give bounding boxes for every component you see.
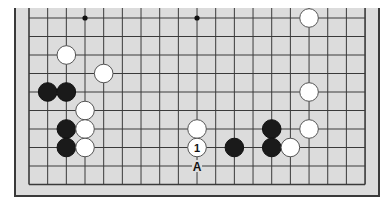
point-label-a: A <box>193 160 202 174</box>
white-stone <box>300 120 319 139</box>
black-stone <box>57 138 76 157</box>
white-stone <box>300 9 319 28</box>
black-stone <box>57 120 76 139</box>
star-point <box>194 15 199 20</box>
white-stone <box>300 83 319 102</box>
black-stone <box>38 83 57 102</box>
move-number-label: 1 <box>194 142 200 154</box>
star-point <box>82 15 87 20</box>
white-stone <box>188 120 207 139</box>
black-stone <box>225 138 244 157</box>
white-stone <box>57 46 76 65</box>
white-stone <box>76 120 95 139</box>
black-stone <box>262 120 281 139</box>
black-stone <box>57 83 76 102</box>
white-stone <box>76 138 95 157</box>
black-stone <box>262 138 281 157</box>
go-board: 1A <box>0 0 391 210</box>
white-stone <box>76 101 95 120</box>
white-stone <box>94 64 113 83</box>
white-stone <box>281 138 300 157</box>
